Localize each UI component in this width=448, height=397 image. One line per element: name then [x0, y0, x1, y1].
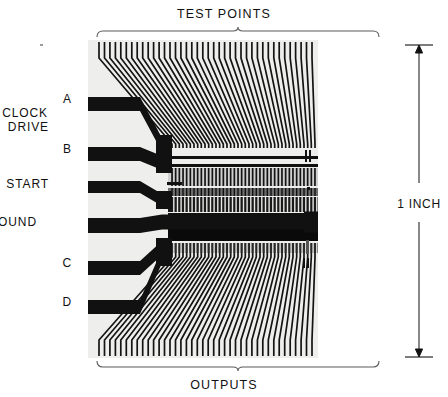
core-slit-bottom-38 — [309, 243, 310, 253]
core-finger-upper-6 — [190, 168, 192, 186]
core-slit-mid-25 — [261, 197, 262, 212]
core-finger-upper-33 — [289, 168, 291, 186]
core-slit-mid-29 — [276, 197, 277, 212]
core-slit-mid-31 — [283, 197, 284, 212]
core-contact-4 — [182, 188, 183, 196]
core-contact-14 — [219, 188, 220, 196]
core-finger-upper-4 — [182, 168, 184, 186]
core-slit-mid-11 — [210, 197, 211, 212]
core-contact-33 — [289, 188, 290, 196]
core-contact-7 — [193, 188, 194, 196]
core-contact-32 — [285, 188, 286, 196]
core-slit-mid-36 — [301, 197, 302, 212]
core-finger-upper-22 — [248, 168, 250, 186]
bus-bar-1 — [168, 156, 319, 159]
core-slit-bottom-30 — [279, 243, 280, 253]
core-slit-bottom-18 — [235, 243, 236, 253]
core-finger-upper-9 — [201, 168, 203, 186]
core-contact-26 — [263, 188, 264, 196]
core-slit-mid-10 — [206, 197, 207, 212]
core-slit-bottom-26 — [265, 243, 266, 253]
core-slit-bottom-28 — [272, 243, 273, 253]
core-finger-upper-10 — [204, 168, 206, 186]
core-slit-mid-8 — [199, 197, 200, 212]
core-finger-upper-17 — [230, 168, 232, 186]
core-contact-40 — [314, 188, 315, 196]
core-contact-8 — [197, 188, 198, 196]
core-slit-mid-7 — [195, 197, 196, 212]
start-probe-dash — [167, 182, 182, 185]
core-slit-bottom-7 — [195, 243, 196, 253]
right-mark-a — [305, 150, 307, 162]
core-finger-upper-31 — [281, 168, 283, 186]
ic-die-layout-figure: TEST POINTS OUTPUTS 1 INCH ACLOCKDRIVEBS… — [0, 0, 448, 397]
core-slit-mid-23 — [254, 197, 255, 212]
core-slit-mid-3 — [180, 197, 181, 212]
core-slit-bottom-14 — [221, 243, 222, 253]
core-slit-mid-28 — [272, 197, 273, 212]
pad-b-landing — [156, 153, 172, 173]
scale-label: 1 INCH — [397, 197, 441, 211]
core-slit-bottom-13 — [217, 243, 218, 253]
outputs-label: OUTPUTS — [190, 378, 257, 392]
pad-label-c: C — [62, 256, 72, 270]
right-mark-d — [306, 240, 309, 254]
core-slit-bottom-33 — [290, 243, 291, 253]
pad-label-clock-drive2: DRIVE — [8, 120, 49, 134]
core-slit-bottom-9 — [202, 243, 203, 253]
core-contact-29 — [274, 188, 275, 196]
core-slit-bottom-34 — [294, 243, 295, 253]
core-contact-39 — [311, 188, 312, 196]
core-slit-bottom-6 — [191, 243, 192, 253]
core-slit-mid-16 — [228, 197, 229, 212]
core-slit-mid-38 — [309, 197, 310, 212]
core-contact-6 — [190, 188, 191, 196]
core-finger-upper-12 — [212, 168, 214, 186]
core-finger-upper-19 — [237, 168, 239, 186]
core-finger-upper-26 — [263, 168, 265, 186]
core-slit-bottom-16 — [228, 243, 229, 253]
core-slit-bottom-24 — [257, 243, 258, 253]
core-finger-upper-11 — [208, 168, 210, 186]
core-finger-upper-21 — [245, 168, 247, 186]
core-slit-bottom-2 — [177, 243, 178, 253]
core-finger-upper-20 — [241, 168, 243, 186]
core-slit-mid-24 — [257, 197, 258, 212]
core-contact-27 — [267, 188, 268, 196]
core-contact-13 — [215, 188, 216, 196]
core-slit-mid-14 — [221, 197, 222, 212]
pad-a-landing — [156, 135, 172, 155]
test-points-label: TEST POINTS — [177, 7, 271, 21]
core-slit-bottom-27 — [268, 243, 269, 253]
core-slit-bottom-29 — [276, 243, 277, 253]
core-slit-bottom-31 — [283, 243, 284, 253]
core-slit-bottom-39 — [312, 243, 313, 253]
core-finger-upper-23 — [252, 168, 254, 186]
core-finger-upper-16 — [226, 168, 228, 186]
core-finger-upper-7 — [193, 168, 195, 186]
core-slit-mid-33 — [290, 197, 291, 212]
core-finger-upper-34 — [292, 168, 294, 186]
core-finger-upper-5 — [186, 168, 188, 186]
core-contact-11 — [208, 188, 209, 196]
core-contact-5 — [186, 188, 187, 196]
core-contact-19 — [237, 188, 238, 196]
core-slit-mid-5 — [188, 197, 189, 212]
pad-label-a: A — [63, 92, 72, 106]
core-slit-mid-17 — [232, 197, 233, 212]
core-slit-bottom-1 — [173, 243, 174, 253]
core-slit-bottom-15 — [224, 243, 225, 253]
core-slit-bottom-11 — [210, 243, 211, 253]
core-finger-upper-25 — [259, 168, 261, 186]
core-slit-bottom-12 — [213, 243, 214, 253]
core-slit-bottom-5 — [188, 243, 189, 253]
core-slit-mid-19 — [239, 197, 240, 212]
core-finger-upper-24 — [256, 168, 258, 186]
core-slit-mid-21 — [246, 197, 247, 212]
right-mark-b — [309, 150, 311, 162]
core-slit-mid-4 — [184, 197, 185, 212]
core-slit-mid-40 — [316, 197, 317, 212]
core-contact-10 — [204, 188, 205, 196]
core-finger-upper-38 — [307, 168, 309, 186]
core-slit-bottom-8 — [199, 243, 200, 253]
